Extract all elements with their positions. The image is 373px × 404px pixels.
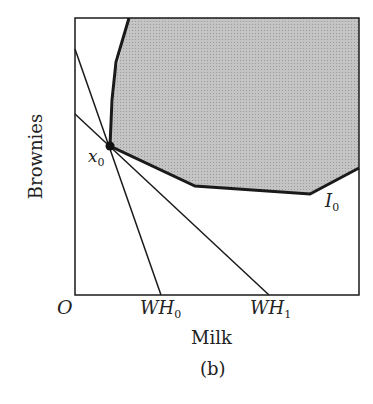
caption: (b) (200, 358, 226, 379)
origin-label: O (57, 296, 73, 318)
i0-label: I0 (325, 190, 339, 214)
x-axis-label: Milk (191, 327, 232, 348)
x0-point (106, 142, 115, 151)
diagram-canvas (0, 0, 373, 404)
wh0-label: WH0 (140, 297, 181, 321)
x0-label: x0 (88, 146, 105, 169)
preferred-set-region (110, 18, 359, 194)
wh1-label: WH1 (250, 297, 291, 321)
y-axis-label: Brownies (25, 112, 46, 202)
